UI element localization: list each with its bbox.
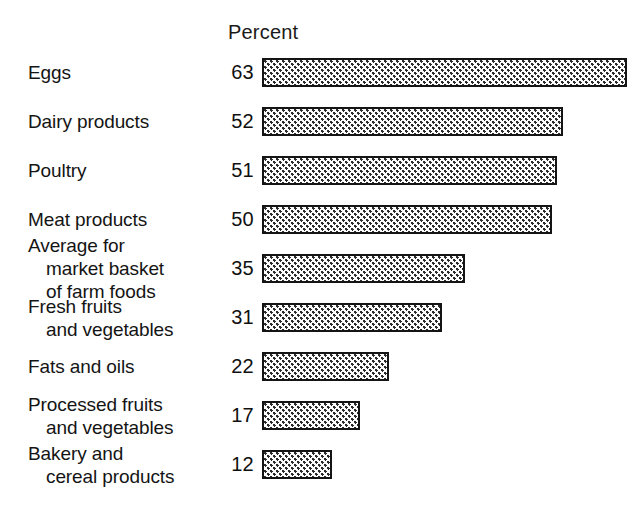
category-label-line: Fresh fruits [28, 295, 224, 318]
bar [262, 450, 332, 479]
horizontal-bar-chart: Percent Eggs63Dairy products52Poultry51M… [0, 0, 642, 506]
category-label-line: Meat products [28, 208, 224, 231]
category-label: Bakery andcereal products [28, 442, 224, 488]
chart-row: Average formarket basketof farm foods35 [0, 244, 642, 293]
category-label-line: and vegetables [28, 416, 224, 439]
category-label-line: and vegetables [28, 318, 224, 341]
category-label: Processed fruitsand vegetables [28, 393, 224, 439]
category-label-line: Processed fruits [28, 393, 224, 416]
value-label: 17 [196, 404, 254, 427]
bar [262, 205, 552, 234]
category-label: Dairy products [28, 110, 224, 133]
chart-row: Fresh fruitsand vegetables31 [0, 293, 642, 342]
bar [262, 254, 465, 283]
category-label-line: Bakery and [28, 442, 224, 465]
chart-row: Processed fruitsand vegetables17 [0, 391, 642, 440]
bar [262, 156, 557, 185]
category-label-line: Fats and oils [28, 355, 224, 378]
value-label: 31 [196, 306, 254, 329]
value-label: 51 [196, 159, 254, 182]
category-label: Fats and oils [28, 355, 224, 378]
chart-row: Bakery andcereal products12 [0, 440, 642, 489]
chart-row: Poultry51 [0, 146, 642, 195]
category-label: Eggs [28, 61, 224, 84]
chart-row: Fats and oils22 [0, 342, 642, 391]
value-label: 63 [196, 61, 254, 84]
category-label-line: Dairy products [28, 110, 224, 133]
chart-row: Dairy products52 [0, 97, 642, 146]
value-label: 22 [196, 355, 254, 378]
bar [262, 303, 442, 332]
bar [262, 401, 360, 430]
category-label: Meat products [28, 208, 224, 231]
category-label: Poultry [28, 159, 224, 182]
bar [262, 58, 627, 87]
value-label: 50 [196, 208, 254, 231]
value-label: 35 [196, 257, 254, 280]
bar [262, 352, 389, 381]
category-label-line: Poultry [28, 159, 224, 182]
chart-row: Eggs63 [0, 48, 642, 97]
category-label-line: Eggs [28, 61, 224, 84]
category-label-line: market basket [28, 257, 224, 280]
value-label: 52 [196, 110, 254, 133]
value-label: 12 [196, 453, 254, 476]
bar [262, 107, 563, 136]
category-label-line: Average for [28, 234, 224, 257]
percent-column-header: Percent [228, 21, 298, 44]
category-label-line: cereal products [28, 465, 224, 488]
category-label: Fresh fruitsand vegetables [28, 295, 224, 341]
